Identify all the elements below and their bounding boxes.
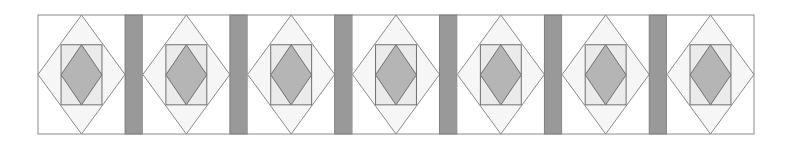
sashing-strip-3 (335, 15, 353, 134)
sashing-strip-6 (649, 15, 667, 134)
sashing-strip-4 (440, 15, 458, 134)
sashing-strip-2 (230, 15, 248, 134)
quilt-border-strip (0, 0, 789, 142)
sashing-strip-1 (125, 15, 143, 134)
sashing-strip-5 (544, 15, 562, 134)
